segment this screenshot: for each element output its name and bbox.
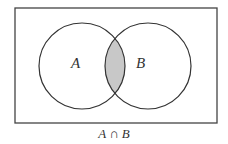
caption: A ∩ B [97,126,130,141]
label-b: B [136,55,145,71]
venn-diagram: A B A ∩ B [0,0,228,144]
label-a: A [70,55,81,71]
